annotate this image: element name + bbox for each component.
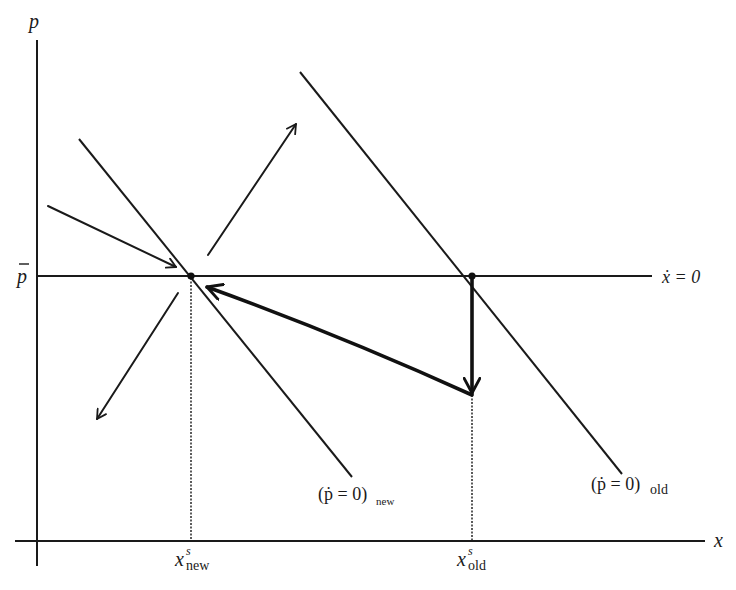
svg-text:x: x xyxy=(456,548,466,570)
p-dot-zero-old-locus xyxy=(300,72,622,474)
arrow-saddle-path xyxy=(207,287,472,395)
svg-text:new: new xyxy=(186,558,210,573)
p-dot-zero-new-label: (ṗ = 0) new xyxy=(318,484,394,507)
svg-text:old: old xyxy=(650,482,668,497)
svg-text:new: new xyxy=(376,495,394,507)
p-bar-label: p xyxy=(15,264,29,288)
x-s-old-label: x s old xyxy=(456,544,486,573)
x-dot-zero-label: ẋ = 0 xyxy=(661,267,700,287)
old-steady-state-dot xyxy=(468,272,475,279)
svg-text:p: p xyxy=(15,265,27,288)
svg-text:(ṗ = 0): (ṗ = 0) xyxy=(591,474,640,495)
p-dot-zero-new-locus xyxy=(79,139,352,477)
x-axis-label: x xyxy=(713,529,723,551)
p-dot-zero-old-label: (ṗ = 0) old xyxy=(591,474,668,497)
svg-text:(ṗ = 0): (ṗ = 0) xyxy=(318,484,367,505)
arrow-diverging-upper-right xyxy=(208,124,296,255)
phase-diagram: p x p ẋ = 0 (ṗ = 0) new (ṗ = 0) old x s … xyxy=(0,0,736,590)
svg-text:s: s xyxy=(468,544,473,558)
new-steady-state-dot xyxy=(187,272,194,279)
svg-text:s: s xyxy=(186,544,191,558)
x-s-new-label: x s new xyxy=(174,544,210,573)
svg-text:x: x xyxy=(174,548,184,570)
svg-text:old: old xyxy=(468,558,486,573)
arrow-diverging-lower-left xyxy=(97,293,178,419)
y-axis-label: p xyxy=(27,10,39,33)
